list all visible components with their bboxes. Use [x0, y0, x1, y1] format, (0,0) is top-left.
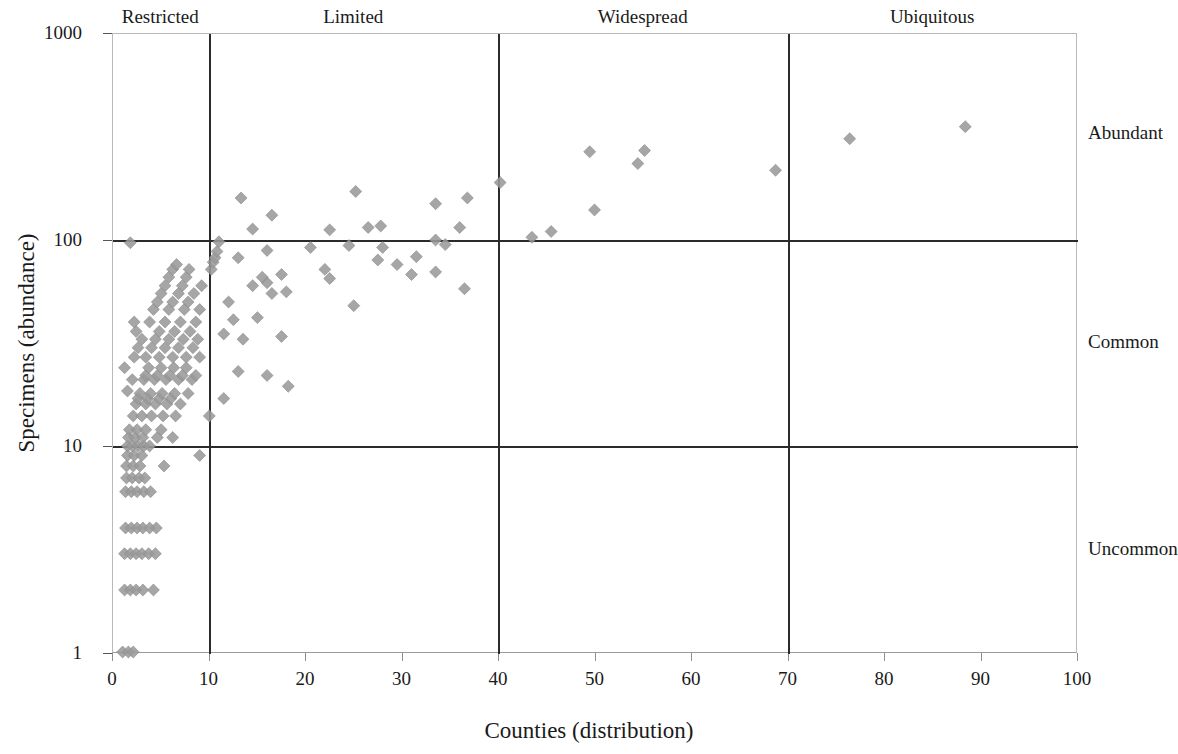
data-point: [159, 316, 171, 328]
plot-area: [112, 33, 1077, 653]
data-point: [190, 316, 202, 328]
data-point: [124, 237, 136, 249]
data-point: [266, 288, 278, 300]
x-tick-mark-0: [112, 653, 113, 661]
data-point: [170, 410, 182, 422]
data-point: [167, 351, 179, 363]
y-axis-title: Specimens (abundance): [14, 83, 40, 603]
data-point: [276, 269, 288, 281]
y-tick-label-1: 1: [73, 643, 83, 662]
data-point: [324, 224, 336, 236]
data-point: [144, 316, 156, 328]
x-tick-mark-10: [209, 653, 210, 661]
data-point: [119, 362, 131, 374]
column-header-ubiquitous: Ubiquitous: [782, 6, 1082, 28]
data-point: [375, 220, 387, 232]
x-tick-mark-30: [402, 653, 403, 661]
x-tick-label-50: 50: [565, 668, 625, 690]
y-tick-mark-100: [103, 240, 112, 241]
data-point: [158, 460, 170, 472]
y-tick-label-1000: 1000: [44, 23, 82, 42]
data-point: [377, 241, 389, 253]
y-tick-mark-1000: [103, 33, 112, 34]
data-point: [391, 259, 403, 271]
data-point: [134, 460, 146, 472]
data-point: [844, 133, 856, 145]
y-tick-label-100: 100: [54, 230, 83, 249]
y-tick-label-10: 10: [63, 436, 82, 455]
x-axis-title: Counties (distribution): [0, 718, 1178, 744]
data-point: [145, 486, 157, 498]
x-tick-label-60: 60: [661, 668, 721, 690]
x-tick-label-40: 40: [468, 668, 528, 690]
data-point: [223, 296, 235, 308]
data-point: [174, 398, 186, 410]
x-tick-mark-20: [305, 653, 306, 661]
data-point: [247, 223, 259, 235]
data-point: [174, 316, 186, 328]
data-point: [372, 254, 384, 266]
data-point: [276, 331, 288, 343]
data-point: [266, 209, 278, 221]
data-point: [147, 584, 159, 596]
data-point: [213, 236, 225, 248]
data-point: [180, 351, 192, 363]
data-point: [261, 369, 273, 381]
data-point: [153, 351, 165, 363]
data-point: [494, 177, 506, 189]
data-point: [121, 385, 133, 397]
data-point: [261, 244, 273, 256]
data-point: [251, 312, 263, 324]
x-tick-mark-60: [691, 653, 692, 661]
x-tick-label-30: 30: [372, 668, 432, 690]
data-point: [461, 192, 473, 204]
data-point: [227, 314, 239, 326]
x-tick-label-80: 80: [854, 668, 914, 690]
data-point: [632, 158, 644, 170]
data-point: [218, 328, 230, 340]
data-point: [343, 240, 355, 252]
data-point: [304, 241, 316, 253]
data-point: [232, 252, 244, 264]
data-point: [350, 186, 362, 198]
data-point: [149, 548, 161, 560]
data-point: [584, 146, 596, 158]
row-label-abundant: Abundant: [1088, 122, 1163, 144]
data-point: [203, 410, 215, 422]
column-header-widespread: Widespread: [493, 6, 793, 28]
data-point: [430, 266, 442, 278]
data-point: [194, 303, 206, 315]
data-point: [280, 286, 292, 298]
data-point: [282, 380, 294, 392]
data-point: [194, 351, 206, 363]
data-point: [126, 374, 138, 386]
data-point: [157, 410, 169, 422]
data-point: [430, 198, 442, 210]
data-point: [406, 269, 418, 281]
data-point-layer: [113, 34, 1076, 652]
data-point: [459, 283, 471, 295]
data-point: [218, 393, 230, 405]
data-point: [182, 387, 194, 399]
data-point: [454, 222, 466, 234]
data-point: [150, 522, 162, 534]
x-tick-label-0: 0: [82, 668, 142, 690]
row-label-common: Common: [1088, 331, 1159, 353]
scatter-chart-figure: Restricted Limited Widespread Ubiquitous…: [0, 0, 1178, 754]
data-point: [362, 222, 374, 234]
data-point: [237, 333, 249, 345]
x-tick-label-10: 10: [179, 668, 239, 690]
data-point: [140, 351, 152, 363]
x-tick-label-90: 90: [951, 668, 1011, 690]
data-point: [348, 300, 360, 312]
data-point: [410, 251, 422, 263]
data-point: [589, 204, 601, 216]
data-point: [545, 225, 557, 237]
y-tick-mark-1: [103, 653, 112, 654]
x-tick-mark-40: [498, 653, 499, 661]
data-point: [235, 192, 247, 204]
data-point: [167, 431, 179, 443]
x-tick-mark-100: [1077, 653, 1078, 661]
x-tick-mark-70: [788, 653, 789, 661]
data-point: [639, 144, 651, 156]
